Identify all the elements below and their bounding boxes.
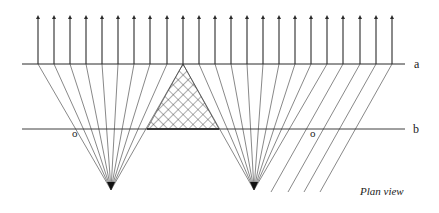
hatched-triangle-region	[147, 64, 219, 129]
plan-view-caption: Plan view	[359, 185, 404, 197]
ray-line	[86, 64, 111, 190]
arrowhead-icon	[309, 15, 313, 19]
ray-line	[54, 64, 111, 190]
ray-line	[254, 64, 279, 190]
focal-point-left-icon	[107, 182, 115, 190]
origin-right-label: o	[310, 127, 316, 139]
arrowhead-icon	[36, 15, 40, 19]
arrowhead-icon	[358, 15, 362, 19]
arrowhead-icon	[68, 15, 72, 19]
origin-left-label: o	[72, 127, 78, 139]
ray-line	[254, 64, 295, 190]
arrowhead-icon	[84, 15, 88, 19]
vertical-arrows-group	[36, 15, 394, 64]
arrowhead-icon	[390, 15, 394, 19]
arrowhead-icon	[374, 15, 378, 19]
ray-line	[254, 64, 263, 190]
arrowhead-icon	[197, 15, 201, 19]
arrowhead-icon	[100, 15, 104, 19]
arrowhead-icon	[341, 15, 345, 19]
focal-point-right-icon	[250, 182, 258, 190]
arrowhead-icon	[245, 15, 249, 19]
arrowhead-icon	[132, 15, 136, 19]
arrowhead-icon	[325, 15, 329, 19]
parallel-ray-line	[288, 64, 360, 192]
arrowhead-icon	[148, 15, 152, 19]
arrowhead-icon	[277, 15, 281, 19]
line-a-label: a	[414, 57, 420, 71]
parallel-ray-line	[320, 64, 392, 192]
plan-view-diagram: a b o o Plan view	[0, 0, 439, 213]
arrowhead-icon	[213, 15, 217, 19]
arrowhead-icon	[229, 15, 233, 19]
line-b-label: b	[413, 122, 419, 136]
arrowhead-icon	[181, 15, 185, 19]
ray-line	[102, 64, 111, 190]
arrowhead-icon	[52, 15, 56, 19]
arrowhead-icon	[293, 15, 297, 19]
arrowhead-icon	[116, 15, 120, 19]
arrowhead-icon	[261, 15, 265, 19]
arrowhead-icon	[165, 15, 169, 19]
